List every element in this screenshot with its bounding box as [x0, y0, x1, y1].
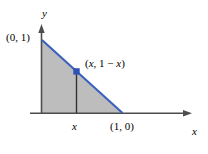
- figure-canvas: [0, 0, 208, 154]
- y-axis-arrowhead: [38, 24, 44, 33]
- triangle-region-figure: (0, 1) (x, 1 − x) x (1, 0) y x: [0, 0, 208, 154]
- label-x-tick: x: [72, 121, 77, 132]
- label-axis-y: y: [42, 8, 47, 19]
- label-axis-x: x: [192, 126, 197, 137]
- point-marker: [73, 68, 79, 74]
- x-axis-arrowhead: [183, 110, 192, 116]
- label-y-intercept: (0, 1): [6, 32, 30, 43]
- label-point-coordinates: (x, 1 − x): [85, 58, 125, 69]
- label-x-intercept: (1, 0): [110, 121, 134, 132]
